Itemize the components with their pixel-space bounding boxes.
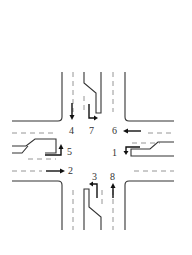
road-curbs <box>12 72 174 230</box>
movement-labels: 4 7 6 5 1 2 3 8 <box>67 125 117 182</box>
lane-dashes <box>12 72 174 230</box>
label-movement-5: 5 <box>67 146 72 157</box>
movement-arrows <box>45 103 141 198</box>
median-west <box>12 139 56 153</box>
arrow-movement-4 <box>70 103 75 120</box>
arrow-movement-6 <box>123 129 141 134</box>
curb-southeast <box>125 181 174 230</box>
curb-northwest <box>12 72 62 121</box>
arrow-movement-3 <box>89 182 97 199</box>
arrow-movement-8 <box>111 183 116 198</box>
medians <box>12 72 174 230</box>
median-south <box>84 189 101 230</box>
arrow-movement-2 <box>46 169 65 174</box>
label-movement-3: 3 <box>92 171 97 182</box>
label-movement-2: 2 <box>68 165 73 176</box>
label-movement-4: 4 <box>69 125 74 136</box>
arrow-movement-7 <box>89 104 98 121</box>
label-movement-1: 1 <box>112 147 117 158</box>
label-movement-8: 8 <box>110 171 115 182</box>
intersection-diagram: 4 7 6 5 1 2 3 8 <box>0 0 192 255</box>
arrow-movement-1 <box>124 147 141 155</box>
curb-southwest <box>12 181 62 230</box>
median-east <box>131 142 174 156</box>
label-movement-7: 7 <box>89 125 94 136</box>
label-movement-6: 6 <box>112 125 117 136</box>
curb-northeast <box>125 72 174 121</box>
median-west-lower <box>12 146 28 153</box>
median-north <box>84 72 101 113</box>
